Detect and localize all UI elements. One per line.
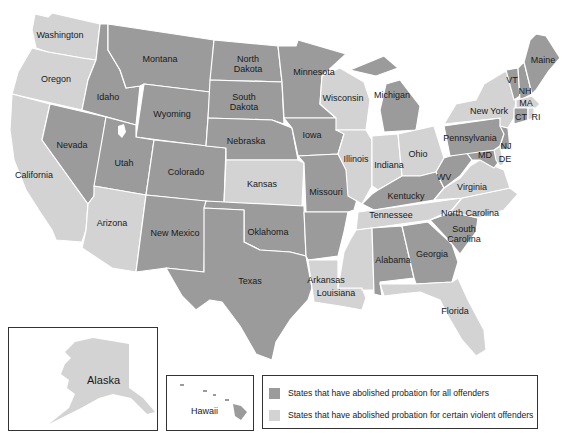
state-label: Maine <box>531 55 556 65</box>
state-new-york[interactable] <box>444 72 516 128</box>
state-label: North <box>237 54 259 64</box>
state-label: South <box>232 92 256 102</box>
state-florida[interactable] <box>380 278 486 356</box>
state-label: Nevada <box>56 140 87 150</box>
alaska-label: Alaska <box>87 374 120 386</box>
state-label: Virginia <box>457 182 487 192</box>
legend-item-certain-violent: States that have abolished probation for… <box>269 408 533 422</box>
state-label: RI <box>532 112 541 122</box>
state-label: Missouri <box>309 187 343 197</box>
state-label: Florida <box>441 306 469 316</box>
state-label: North Carolina <box>441 208 499 218</box>
state-label: NH <box>519 86 532 96</box>
state-label: Alabama <box>375 255 411 265</box>
state-label: Dakota <box>234 64 263 74</box>
state-label: Arizona <box>97 218 128 228</box>
state-label: New York <box>470 106 509 116</box>
state-label: Wisconsin <box>322 93 363 103</box>
state-label: Idaho <box>97 92 120 102</box>
state-label: DE <box>499 154 512 164</box>
legend-swatch-light <box>269 410 280 421</box>
legend-swatch-dark <box>269 388 280 399</box>
state-label: Dakota <box>230 102 259 112</box>
state-label: Wyoming <box>153 109 190 119</box>
alaska-inset: Alaska <box>8 327 158 431</box>
state-label: NJ <box>501 141 512 151</box>
state-label: Michigan <box>374 90 410 100</box>
state-label: Nebraska <box>227 136 266 146</box>
state-label: Illinois <box>343 154 369 164</box>
map-legend: States that have abolished probation for… <box>262 375 538 429</box>
state-label: VT <box>506 75 518 85</box>
state-label: Louisiana <box>317 288 356 298</box>
state-label: WV <box>437 172 452 182</box>
state-label: Utah <box>114 158 133 168</box>
state-label: Iowa <box>302 130 321 140</box>
state-label: Indiana <box>374 160 404 170</box>
state-label: Kentucky <box>387 191 425 201</box>
state-label: CT <box>515 112 527 122</box>
state-label: Washington <box>36 30 83 40</box>
hawaii-inset: Hawaii <box>166 375 254 431</box>
state-label: Montana <box>142 54 177 64</box>
state-label: Ohio <box>408 149 427 159</box>
alaska-shape <box>9 328 156 429</box>
state-label: Arkansas <box>307 275 345 285</box>
state-label: Texas <box>238 276 262 286</box>
state-label: Pennsylvania <box>443 133 497 143</box>
state-label: New Mexico <box>150 228 199 238</box>
state-label: Tennessee <box>369 210 413 220</box>
state-label: Carolina <box>447 234 481 244</box>
legend-label: States that have abolished probation for… <box>288 388 489 398</box>
state-label: Kansas <box>247 179 278 189</box>
state-label: MD <box>478 150 492 160</box>
hawaii-shape <box>167 376 252 429</box>
state-label: Oklahoma <box>247 227 288 237</box>
state-arkansas[interactable] <box>304 212 348 260</box>
state-label: MA <box>519 98 533 108</box>
state-arizona[interactable] <box>82 186 146 272</box>
state-label: Minnesota <box>293 67 335 77</box>
legend-item-all-offenders: States that have abolished probation for… <box>269 386 489 400</box>
state-label: California <box>15 170 53 180</box>
legend-label: States that have abolished probation for… <box>288 410 533 420</box>
hawaii-label: Hawaii <box>191 406 218 416</box>
state-label: South <box>452 224 476 234</box>
state-label: Georgia <box>416 249 448 259</box>
state-label: Oregon <box>41 74 71 84</box>
state-label: Colorado <box>168 167 205 177</box>
